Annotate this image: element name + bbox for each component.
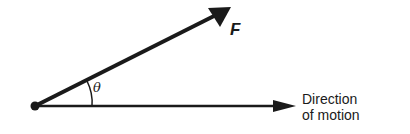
angle-label: θ — [93, 80, 101, 95]
force-label: F — [230, 20, 240, 40]
direction-label-line1: Direction — [302, 91, 360, 107]
motion-direction-arrow — [35, 100, 296, 112]
direction-label-line2: of motion — [302, 107, 360, 123]
force-vector-arrow — [35, 7, 231, 106]
direction-of-motion-label: Direction of motion — [302, 91, 360, 123]
angle-arc — [87, 81, 92, 106]
